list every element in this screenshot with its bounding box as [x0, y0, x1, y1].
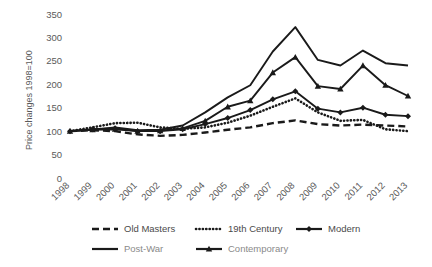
- y-tick-label: 50: [51, 149, 62, 160]
- y-tick-label: 100: [46, 126, 62, 137]
- y-tick-label: 350: [46, 9, 62, 20]
- legend-label: 19th Century: [228, 223, 283, 234]
- y-tick-label: 150: [46, 102, 62, 113]
- y-axis-title: Price changes 1998=100: [24, 50, 34, 150]
- y-tick-label: 200: [46, 79, 62, 90]
- legend-label: Modern: [328, 223, 360, 234]
- chart-background: [0, 0, 432, 267]
- y-tick-label: 250: [46, 55, 62, 66]
- legend-label: Contemporary: [228, 243, 288, 254]
- line-chart: Price changes 1998=100 35030025020015010…: [0, 0, 432, 267]
- y-tick-label: 300: [46, 32, 62, 43]
- legend-label: Old Masters: [124, 223, 175, 234]
- chart-container: Price changes 1998=100 35030025020015010…: [0, 0, 432, 267]
- legend-label: Post-War: [124, 243, 163, 254]
